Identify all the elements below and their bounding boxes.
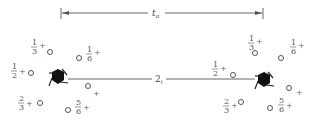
site-zero: + [287, 86, 303, 98]
site-two-thirds: 2 3 + [18, 94, 43, 112]
site-one-third: 1 3 + [248, 34, 263, 56]
svg-text:+: + [93, 89, 100, 98]
dimension-line: ta [61, 8, 263, 19]
link-line: 2t [68, 74, 255, 85]
site-five-sixths: 5 6 + [268, 96, 293, 114]
svg-text:+: + [83, 103, 90, 112]
svg-text:1: 1 [32, 38, 37, 47]
site-circle [48, 50, 53, 55]
site-two-thirds: 2 3 + [223, 97, 244, 115]
site-one-sixth: 1 6 + [279, 38, 305, 61]
site-one-third: 1 3 + [31, 38, 53, 56]
svg-text:+: + [39, 41, 46, 50]
hexagon-icon [49, 69, 68, 86]
arrowhead-right-icon [255, 11, 262, 15]
svg-text:1: 1 [87, 45, 92, 54]
svg-text:2: 2 [19, 94, 24, 103]
svg-text:6: 6 [291, 47, 296, 56]
arrowhead-left-icon [62, 11, 69, 15]
link-label: 2t [155, 74, 163, 85]
svg-text:+: + [256, 37, 263, 46]
site-one-half: 1 2 + [11, 62, 34, 80]
svg-text:2: 2 [213, 69, 218, 78]
svg-text:6: 6 [279, 105, 284, 114]
site-circle [29, 71, 34, 76]
svg-text:2: 2 [12, 71, 17, 80]
svg-text:3: 3 [19, 103, 24, 112]
site-circle [38, 101, 43, 106]
svg-text:5: 5 [76, 98, 81, 107]
site-circle [231, 73, 236, 78]
svg-text:1: 1 [213, 60, 218, 69]
site-zero: + [86, 84, 100, 99]
svg-text:1: 1 [291, 38, 296, 47]
svg-text:1: 1 [12, 62, 17, 71]
svg-text:6: 6 [76, 107, 81, 116]
svg-text:+: + [94, 48, 101, 57]
svg-text:6: 6 [87, 54, 92, 63]
left-cluster: 1 3 + 1 6 + 1 2 + + 2 [11, 38, 101, 116]
site-circle [86, 84, 91, 89]
svg-text:+: + [220, 64, 227, 73]
svg-text:3: 3 [224, 106, 229, 115]
svg-text:+: + [298, 41, 305, 50]
diagram-canvas: ta 2t 1 3 + 1 6 + [0, 0, 314, 129]
site-circle [239, 100, 244, 105]
svg-text:+: + [26, 99, 33, 108]
hexagon-icon [255, 72, 274, 89]
svg-text:+: + [296, 88, 303, 97]
site-circle [268, 106, 273, 111]
site-circle [279, 56, 284, 61]
site-one-sixth: 1 6 + [77, 45, 101, 63]
svg-text:+: + [231, 101, 238, 110]
site-five-sixths: 5 6 + [66, 98, 90, 116]
svg-text:5: 5 [279, 96, 284, 105]
site-circle [287, 86, 292, 91]
site-one-half: 1 2 + [212, 60, 236, 78]
dimension-label: ta [152, 8, 160, 19]
svg-text:+: + [19, 67, 26, 76]
right-cluster: 1 3 + 1 6 + 1 2 + + 2 [212, 34, 305, 115]
site-circle [253, 51, 258, 56]
site-circle [66, 108, 71, 113]
svg-text:1: 1 [249, 34, 254, 43]
svg-text:+: + [286, 101, 293, 110]
svg-text:3: 3 [32, 47, 37, 56]
site-circle [77, 56, 82, 61]
svg-text:2: 2 [224, 97, 229, 106]
